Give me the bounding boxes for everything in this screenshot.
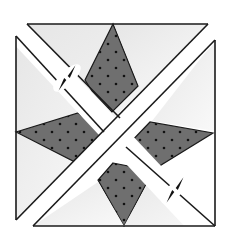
quilt-block-svg	[0, 0, 226, 243]
quilt-block-diagram	[0, 0, 226, 243]
